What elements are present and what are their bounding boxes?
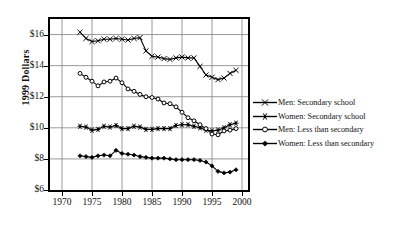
- data-point-marker: [227, 71, 232, 76]
- chart-canvas: [50, 19, 248, 190]
- data-point-marker: [197, 64, 202, 69]
- data-point-marker: [228, 128, 232, 132]
- data-point-marker: [138, 92, 142, 96]
- legend-marker-x-icon: [252, 96, 278, 109]
- data-point-marker: [227, 122, 232, 127]
- data-point-marker: [108, 79, 112, 83]
- data-point-marker: [174, 158, 178, 162]
- y-tick-label: $6: [12, 184, 44, 194]
- data-point-marker: [234, 127, 238, 131]
- data-point-marker: [77, 30, 82, 35]
- x-tick-mark: [182, 192, 183, 196]
- data-point-marker: [180, 110, 184, 114]
- data-point-marker: [203, 72, 208, 77]
- data-point-marker: [161, 126, 166, 131]
- legend-item-0: Men: Secondary school: [252, 96, 410, 110]
- x-tick-mark: [122, 192, 123, 196]
- x-tick-mark: [212, 192, 213, 196]
- data-point-marker: [126, 152, 130, 156]
- data-point-marker: [120, 81, 124, 85]
- legend-label: Men: Less than secondary: [278, 123, 364, 137]
- data-point-marker: [168, 157, 172, 161]
- data-point-marker: [90, 79, 94, 83]
- data-point-marker: [192, 158, 196, 162]
- x-tick-mark: [242, 192, 243, 196]
- data-point-marker: [107, 124, 112, 129]
- data-point-marker: [114, 76, 118, 80]
- x-tick-label: 2000: [222, 197, 262, 207]
- data-point-marker: [174, 105, 178, 109]
- data-point-marker: [180, 158, 184, 162]
- data-point-marker: [216, 133, 220, 137]
- data-point-marker: [173, 123, 178, 128]
- data-point-marker: [150, 96, 154, 100]
- data-point-marker: [102, 80, 106, 84]
- y-tick-label: $16: [12, 29, 44, 39]
- data-point-marker: [144, 95, 148, 99]
- legend-item-2: Men: Less than secondary: [252, 123, 410, 137]
- data-point-marker: [168, 102, 172, 106]
- data-point-marker: [233, 121, 238, 126]
- series-1: [77, 121, 238, 134]
- legend-marker-star-icon: [252, 110, 278, 123]
- data-point-marker: [204, 127, 208, 131]
- series-3: [78, 148, 238, 175]
- plot-area: [48, 17, 250, 192]
- data-point-marker: [167, 126, 172, 131]
- legend-item-1: Women: Secondary school: [252, 110, 410, 124]
- data-point-marker: [138, 154, 142, 158]
- data-point-marker: [120, 151, 124, 155]
- data-point-marker: [162, 101, 166, 105]
- data-point-marker: [96, 84, 100, 88]
- data-point-marker: [155, 126, 160, 131]
- data-point-marker: [96, 154, 100, 158]
- x-tick-mark: [62, 192, 63, 196]
- data-point-marker: [84, 75, 88, 79]
- data-point-marker: [113, 123, 118, 128]
- legend-label: Women: Less than secondary: [278, 137, 374, 151]
- data-point-marker: [186, 116, 190, 120]
- data-point-marker: [156, 97, 160, 101]
- legend-label: Women: Secondary school: [278, 110, 366, 124]
- data-point-marker: [222, 171, 226, 175]
- data-point-marker: [210, 132, 214, 136]
- data-point-marker: [78, 154, 82, 158]
- data-point-marker: [228, 170, 232, 174]
- legend-marker-diamond-icon: [252, 137, 278, 150]
- data-point-marker: [262, 113, 268, 119]
- data-point-marker: [132, 89, 136, 93]
- y-tick-label: $10: [12, 122, 44, 132]
- x-tick-mark: [152, 192, 153, 196]
- data-point-marker: [78, 71, 82, 75]
- y-tick-label: $12: [12, 91, 44, 101]
- y-axis-title: 1999 Dollars: [20, 23, 31, 133]
- series-0: [77, 30, 238, 83]
- data-point-marker: [162, 156, 166, 160]
- data-point-marker: [125, 126, 130, 131]
- data-point-marker: [102, 153, 106, 157]
- data-point-marker: [156, 156, 160, 160]
- data-point-marker: [263, 127, 268, 132]
- data-point-marker: [222, 129, 226, 133]
- data-point-marker: [262, 141, 267, 146]
- data-point-marker: [143, 48, 148, 53]
- chart-figure: 1999 Dollars $6$8$10$12$14$16 1970197519…: [0, 0, 410, 230]
- data-point-marker: [234, 168, 238, 172]
- data-point-marker: [150, 156, 154, 160]
- x-tick-mark: [92, 192, 93, 196]
- legend-item-3: Women: Less than secondary: [252, 137, 410, 151]
- data-point-marker: [126, 87, 130, 91]
- data-point-marker: [186, 158, 190, 162]
- data-point-marker: [233, 68, 238, 73]
- data-point-marker: [84, 154, 88, 158]
- chart-legend: Men: Secondary schoolWomen: Secondary sc…: [252, 96, 410, 150]
- y-tick-label: $8: [12, 153, 44, 163]
- legend-label: Men: Secondary school: [278, 96, 355, 110]
- data-point-marker: [215, 128, 220, 133]
- data-point-marker: [198, 123, 202, 127]
- legend-marker-o-icon: [252, 123, 278, 136]
- data-point-marker: [132, 153, 136, 157]
- data-point-marker: [83, 36, 88, 41]
- data-point-marker: [137, 124, 142, 129]
- data-point-marker: [83, 124, 88, 129]
